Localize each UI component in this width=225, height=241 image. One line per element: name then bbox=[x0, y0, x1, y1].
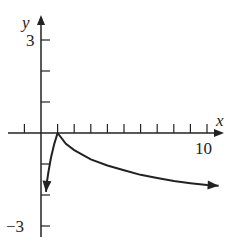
graph: y 3 −3 x 10 bbox=[0, 0, 225, 241]
x-axis-label: x bbox=[215, 111, 224, 130]
x-tick-label-10: 10 bbox=[195, 139, 212, 158]
y-tick-label-3: 3 bbox=[26, 31, 35, 50]
y-axis-arrow-icon bbox=[37, 15, 45, 25]
y-tick-label-neg3: −3 bbox=[6, 217, 24, 236]
right-branch-arrow-icon bbox=[207, 181, 218, 190]
x-ticks bbox=[24, 124, 207, 133]
y-axis-label: y bbox=[20, 13, 30, 32]
x-axis-arrow-icon bbox=[214, 129, 224, 137]
